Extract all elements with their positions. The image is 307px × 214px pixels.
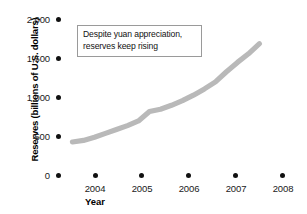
chart-container: Reserves (billions of U.S. dollars) 2,00… — [0, 0, 307, 214]
annotation-line-2: reserves keep rising — [83, 41, 196, 53]
reserves-line-series — [72, 44, 259, 142]
annotation-callout: Despite yuan appreciation, reserves keep… — [77, 25, 202, 57]
annotation-line-1: Despite yuan appreciation, — [83, 29, 196, 41]
